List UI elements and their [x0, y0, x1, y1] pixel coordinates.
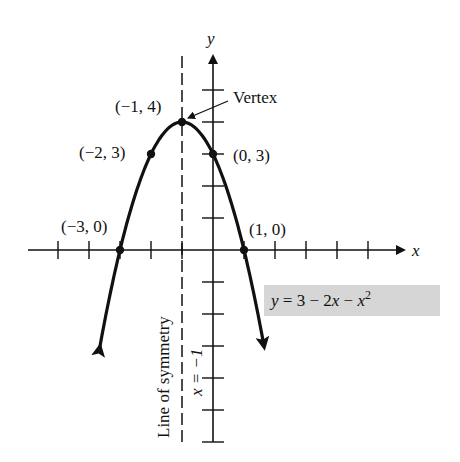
vertex-pointer-line — [188, 101, 228, 118]
y-axis-label: y — [205, 29, 215, 48]
point-label-m3-0: (−3, 0) — [61, 217, 107, 236]
line-of-symmetry-label: Line of symmetry — [154, 316, 173, 438]
x-axis-label: x — [411, 241, 420, 260]
parabola-chart: y x Vertex (−1, 4) (−2, 3) (0, 3) (−3, 0… — [0, 0, 460, 462]
point-label-1-0: (1, 0) — [249, 220, 286, 239]
equation-box: y = 3 − 2x − x2 — [264, 285, 440, 316]
data-point — [147, 150, 155, 158]
symmetry-equation-label: x = −1 — [187, 349, 206, 398]
data-point — [209, 150, 217, 158]
point-label-0-3: (0, 3) — [233, 146, 270, 165]
data-point — [178, 118, 186, 126]
vertex-label: Vertex — [233, 88, 278, 107]
equation-text: y = 3 − 2x − x2 — [269, 288, 371, 310]
point-label-m2-3: (−2, 3) — [79, 143, 125, 162]
data-point — [116, 246, 124, 254]
point-label-m1-4: (−1, 4) — [115, 97, 161, 116]
data-point — [240, 246, 248, 254]
axes — [28, 56, 404, 442]
